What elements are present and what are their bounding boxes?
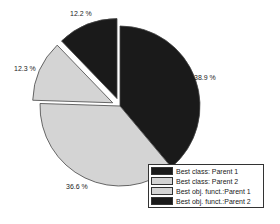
slice-label-best-obj-funct-parent-1: 12.3 % [14,65,36,72]
legend-swatch [151,187,173,195]
legend-item: Best obj. funct.:Parent 1 [151,186,261,196]
legend-label: Best obj. funct.:Parent 2 [176,198,251,205]
legend-swatch [151,167,173,175]
legend-item: Best class: Parent 1 [151,166,261,176]
legend-item: Best class: Parent 2 [151,176,261,186]
slice-label-best-class-parent-2: 36.6 % [66,183,88,190]
slice-label-best-obj-funct-parent-2: 12.2 % [70,10,92,17]
legend-label: Best class: Parent 2 [176,178,238,185]
legend-swatch [151,197,173,205]
legend-label: Best class: Parent 1 [176,168,238,175]
legend-item: Best obj. funct.:Parent 2 [151,196,261,206]
slice-label-best-class-parent-1: 38.9 % [194,74,216,81]
chart-legend: Best class: Parent 1 Best class: Parent … [148,164,264,208]
legend-swatch [151,177,173,185]
legend-label: Best obj. funct.:Parent 1 [176,188,251,195]
